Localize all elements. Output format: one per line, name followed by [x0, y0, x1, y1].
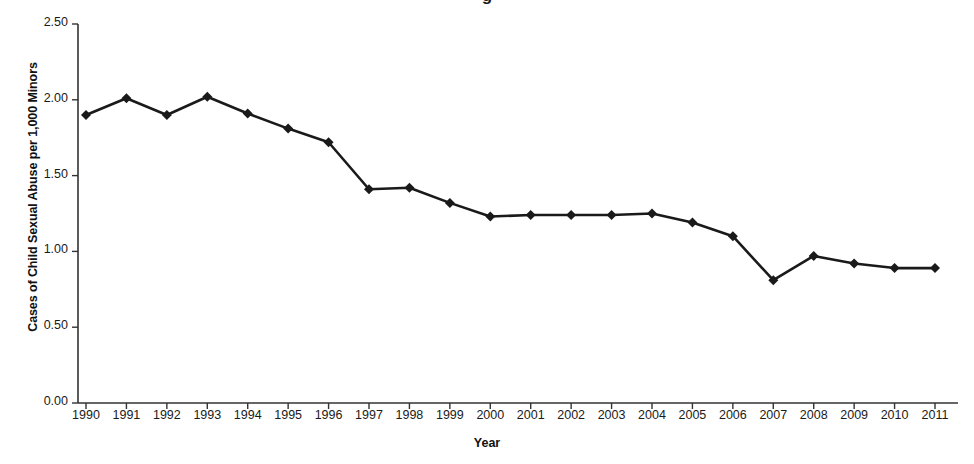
data-point-marker: [647, 209, 657, 219]
data-point-marker: [404, 183, 414, 193]
data-point-marker: [243, 108, 253, 118]
data-point-marker: [283, 124, 293, 134]
data-point-marker: [121, 93, 131, 103]
series-line: [86, 97, 935, 280]
data-point-marker: [566, 210, 576, 220]
data-point-marker: [687, 218, 697, 228]
data-point-marker: [930, 263, 940, 273]
data-point-marker: [81, 110, 91, 120]
data-point-marker: [890, 263, 900, 273]
data-series-child-sexual-abuse: [81, 92, 940, 285]
data-point-marker: [485, 212, 495, 222]
data-point-marker: [445, 198, 455, 208]
data-point-marker: [526, 210, 536, 220]
data-point-marker: [202, 92, 212, 102]
data-point-marker: [849, 259, 859, 269]
chart-figure: g Cases of Child Sexual Abuse per 1,000 …: [0, 0, 974, 464]
line-chart-plot: [0, 0, 974, 464]
data-point-marker: [162, 110, 172, 120]
data-point-marker: [607, 210, 617, 220]
